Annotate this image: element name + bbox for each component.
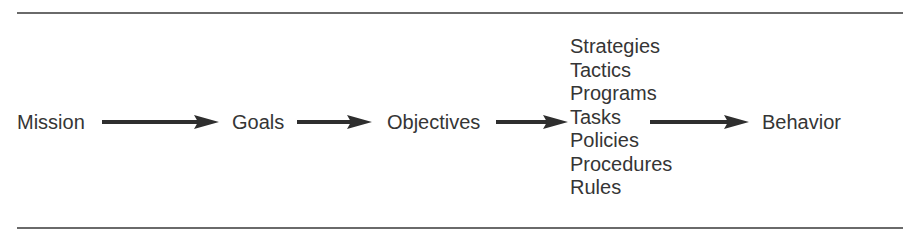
arrow-right-icon [496, 115, 568, 129]
node-behavior: Behavior [762, 112, 841, 132]
means-item-programs: Programs [570, 82, 672, 106]
node-mission: Mission [17, 112, 85, 132]
arrow-right-icon [650, 115, 749, 129]
means-item-procedures: Procedures [570, 153, 672, 177]
arrow-right-icon [297, 115, 372, 129]
top-rule [17, 12, 903, 14]
means-item-policies: Policies [570, 129, 672, 153]
arrow-right-icon [102, 115, 219, 129]
node-goals: Goals [232, 112, 284, 132]
bottom-rule [17, 227, 903, 229]
node-objectives: Objectives [387, 112, 480, 132]
means-item-tactics: Tactics [570, 59, 672, 83]
means-item-strategies: Strategies [570, 35, 672, 59]
means-item-rules: Rules [570, 176, 672, 200]
